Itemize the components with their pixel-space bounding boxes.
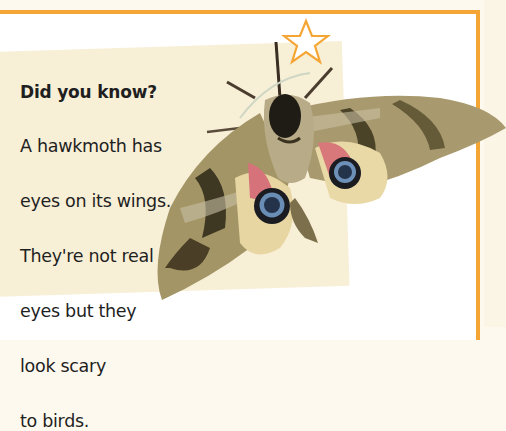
hawkmoth-image bbox=[140, 38, 506, 313]
fact-line: look scary bbox=[20, 353, 250, 381]
fact-line: to birds. bbox=[20, 408, 250, 431]
star-outline-icon bbox=[281, 18, 331, 66]
